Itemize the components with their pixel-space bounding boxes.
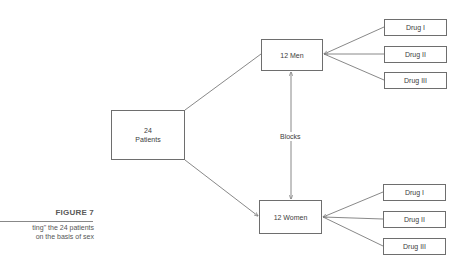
men-label: 12 Men	[280, 51, 303, 60]
figure-rule	[0, 221, 93, 222]
women-drug-2-label: Drug II	[404, 215, 425, 224]
men-drug-1-label: Drug I	[406, 23, 425, 32]
edge-men-drug-1	[324, 27, 384, 54]
men-node: 12 Men	[261, 39, 323, 71]
women-drug-3-box: Drug III	[383, 238, 446, 255]
men-drug-3-box: Drug III	[384, 72, 447, 89]
edge-patients-men	[185, 54, 261, 110]
edge-women-drug-2	[323, 217, 383, 219]
men-drug-3-label: Drug III	[404, 76, 427, 85]
women-drug-1-label: Drug I	[405, 188, 424, 197]
women-node: 12 Women	[259, 200, 322, 234]
men-drug-2-label: Drug II	[405, 50, 426, 59]
caption-line-1: ting" the 24 patients	[32, 223, 94, 232]
edge-men-drug-3	[324, 54, 384, 80]
men-drug-2-box: Drug II	[384, 46, 447, 63]
women-label: 12 Women	[274, 213, 308, 222]
women-drug-2-box: Drug II	[383, 211, 446, 228]
women-drug-3-label: Drug III	[403, 242, 426, 251]
figure-caption: ting" the 24 patients on the basis of se…	[32, 223, 94, 241]
caption-line-2: on the basis of sex	[32, 232, 94, 241]
patients-label: Patients	[135, 135, 160, 144]
edge-women-drug-3	[323, 217, 383, 246]
edge-women-drug-1	[323, 192, 383, 217]
men-drug-1-box: Drug I	[384, 19, 447, 36]
patients-count: 24	[144, 126, 152, 135]
blocks-label: Blocks	[280, 132, 301, 141]
edge-patients-women	[185, 160, 258, 216]
patients-node: 24 Patients	[111, 110, 185, 160]
figure-title: FIGURE 7	[56, 208, 95, 217]
women-drug-1-box: Drug I	[383, 184, 446, 201]
